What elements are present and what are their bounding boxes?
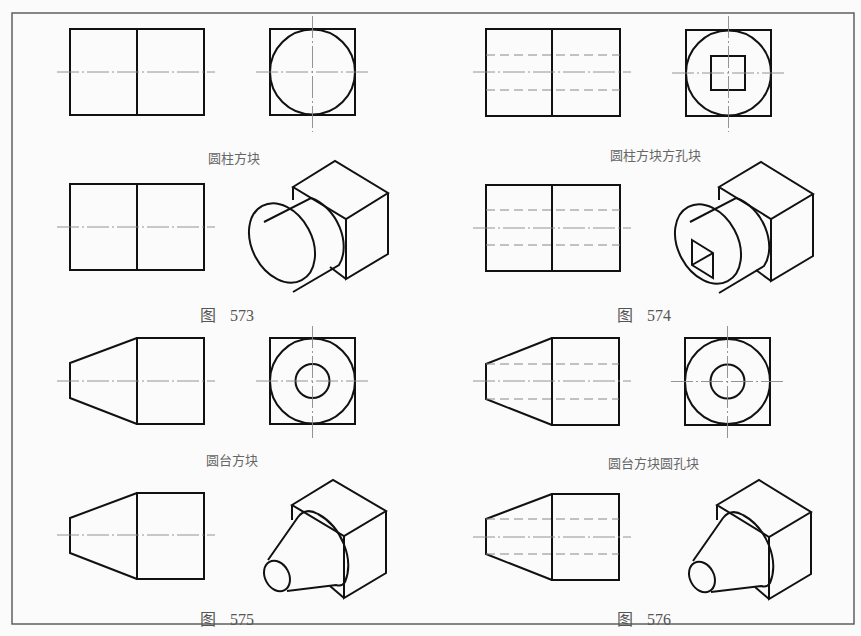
fig574-front-view: [473, 29, 631, 116]
figure-label-576: 图576: [617, 606, 671, 630]
fig576-front-view-2: [473, 494, 631, 580]
fig573-isometric: [236, 161, 388, 294]
fig574-side-view: [672, 16, 785, 132]
figure-number: 575: [230, 611, 254, 628]
fig574-front-view-2: [473, 185, 631, 271]
figure-prefix: 图: [200, 307, 216, 324]
fig574-isometric: [662, 162, 813, 295]
figure-number: 574: [647, 307, 671, 324]
fig573-side-view: [256, 16, 369, 132]
fig576-side-view: [671, 326, 784, 441]
figure-prefix: 图: [617, 611, 633, 628]
figure-prefix: 图: [617, 307, 633, 324]
caption-574: 圆柱方块方孔块: [610, 145, 701, 164]
figure-label-575: 图575: [200, 606, 254, 630]
fig573-front-view-2: [57, 184, 215, 270]
caption-576: 圆台方块圆孔块: [608, 453, 699, 472]
sheet-frame: [12, 13, 854, 624]
fig575-side-view: [256, 326, 369, 441]
fig576-isometric: [684, 480, 811, 599]
caption-573: 圆柱方块: [208, 148, 260, 167]
figure-label-574: 图574: [617, 302, 671, 326]
figure-number: 576: [647, 611, 671, 628]
fig575-front-view: [57, 338, 215, 424]
figure-number: 573: [230, 307, 254, 324]
figure-prefix: 图: [200, 611, 216, 628]
drawing-sheet: [0, 0, 861, 636]
figure-label-573: 图573: [200, 302, 254, 326]
fig576-front-view: [473, 338, 631, 425]
fig575-front-view-2: [57, 493, 215, 579]
fig573-front-view: [57, 29, 215, 115]
caption-575: 圆台方块: [206, 450, 258, 469]
fig575-isometric: [259, 480, 386, 598]
